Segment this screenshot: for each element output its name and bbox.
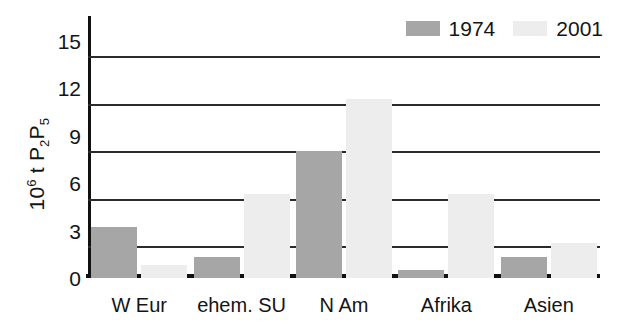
- y-tick-label: 3: [41, 220, 81, 241]
- bar-ehem-su-1974: [194, 257, 240, 278]
- y-tick-label: 12: [41, 78, 81, 99]
- bar-w-eur-2001: [141, 265, 187, 278]
- x-tick-label: Afrika: [421, 294, 472, 317]
- bar-w-eur-1974: [91, 227, 137, 278]
- x-tick-label: ehem. SU: [197, 294, 286, 317]
- y-tick-label: 15: [41, 30, 81, 51]
- bar-n-am-1974: [296, 151, 342, 278]
- bar-asien-2001: [551, 243, 597, 278]
- gridline: [88, 104, 600, 106]
- bar-n-am-2001: [346, 99, 392, 278]
- gridline: [88, 246, 600, 248]
- x-tick-label: Asien: [524, 294, 574, 317]
- y-tick-label: 0: [41, 268, 81, 289]
- gridline: [88, 151, 600, 153]
- x-tick-label: W Eur: [111, 294, 167, 317]
- y-tick-label: 6: [41, 173, 81, 194]
- bar-asien-1974: [501, 257, 547, 278]
- bar-ehem-su-2001: [244, 194, 290, 278]
- y-axis-title-exponent: 6: [24, 179, 39, 186]
- bar-afrika-1974: [398, 270, 444, 278]
- gridline: [88, 199, 600, 201]
- gridline: [88, 56, 600, 58]
- plot-area: 15129630 W Eurehem. SUN AmAfrikaAsien: [88, 28, 600, 278]
- y-tick-label: 9: [41, 125, 81, 146]
- x-tick-label: N Am: [320, 294, 369, 317]
- bar-chart: 106 t P2P5 1974 2001 15129630 W Eurehem.…: [0, 0, 621, 325]
- bar-afrika-2001: [448, 194, 494, 278]
